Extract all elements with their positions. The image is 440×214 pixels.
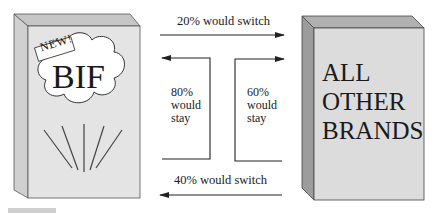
other-brands-title: ALL OTHER BRANDS: [322, 58, 423, 145]
flow-label-20-switch: 20% would switch: [177, 14, 270, 29]
other-brands-line-2: OTHER: [322, 87, 423, 116]
other-brands-line-3: BRANDS: [322, 116, 423, 145]
stay-60-stay: stay: [247, 112, 277, 125]
stay-80-stay: stay: [171, 112, 201, 125]
flow-label-80-stay: 80% would stay: [171, 86, 201, 125]
bif-title: BIF: [52, 60, 105, 94]
flow-label-40-switch: 40% would switch: [174, 173, 267, 188]
figure-caption: [8, 208, 56, 213]
flow-label-60-stay: 60% would stay: [247, 86, 277, 125]
other-brands-line-1: ALL: [322, 58, 423, 87]
